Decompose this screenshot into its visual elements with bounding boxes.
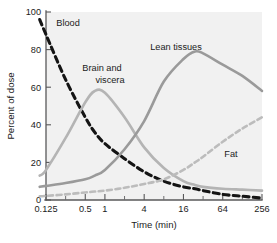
chart-container: 020406080100 0.1250.5141664256 BloodBrai… [0,0,277,243]
x-axis-title: Time (min) [131,219,176,230]
pharmacokinetics-line-chart: 020406080100 0.1250.5141664256 BloodBrai… [0,0,277,243]
series-label-viscera: viscera [95,75,125,85]
y-tick-label: 60 [31,83,41,93]
x-tick-label: 16 [178,204,188,214]
x-tick-label: 0.5 [79,204,92,214]
x-tick-label: 1 [102,204,107,214]
y-tick-label: 20 [31,158,41,168]
x-axis-tick-labels: 0.1250.5141664256 [35,204,270,214]
x-tick-label: 64 [218,204,228,214]
y-tick-label: 100 [26,7,41,17]
y-axis-title: Percent of dose [5,72,16,139]
series-label-lean-tissues: Lean tissues [150,42,202,52]
x-tick-label: 0.125 [35,204,58,214]
series-label-brain-and: Brain and [82,63,121,73]
x-tick-label: 4 [142,204,147,214]
y-tick-label: 40 [31,120,41,130]
series-label-fat: Fat [224,149,238,159]
y-tick-label: 80 [31,45,41,55]
series-label-blood: Blood [56,18,80,28]
x-tick-label: 256 [254,204,269,214]
